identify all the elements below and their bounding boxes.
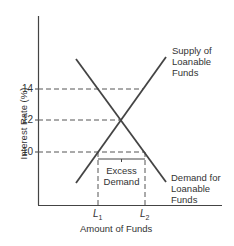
- x-tick-l2: L2: [140, 208, 149, 221]
- excess-demand-label: Excess Demand: [98, 165, 145, 187]
- x-axis-label: Amount of Funds: [80, 223, 152, 234]
- supply-curve-label: Supply of Loanable Funds: [172, 45, 212, 78]
- demand-curve-label: Demand for Loanable Funds: [171, 172, 221, 205]
- x-tick-l1: L1: [93, 208, 102, 221]
- chart-canvas: [0, 0, 234, 246]
- y-axis-label: Interest Rate (%): [18, 79, 29, 169]
